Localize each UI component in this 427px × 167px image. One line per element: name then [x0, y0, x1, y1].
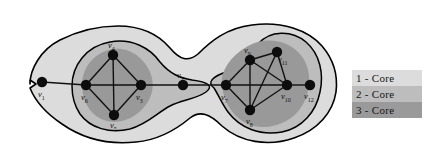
graph-edge-v4-v5 [113, 55, 114, 115]
legend-item-1-core-label: 1 - Core [356, 72, 394, 84]
graph-node-v3[interactable] [136, 80, 146, 90]
legend-item-1-core: 1 - Core [352, 70, 422, 86]
graph-node-v6[interactable] [81, 80, 91, 90]
graph-node-v5[interactable] [109, 110, 119, 120]
legend-item-3-core: 3 - Core [352, 102, 422, 118]
legend-item-3-core-label: 3 - Core [356, 104, 394, 116]
graph-node-v1[interactable] [37, 77, 47, 87]
legend: 1 - Core 2 - Core 3 - Core [352, 70, 422, 118]
graph-node-v10[interactable] [282, 80, 292, 90]
graph-node-v7[interactable] [221, 80, 231, 90]
graph-node-v8[interactable] [245, 105, 255, 115]
legend-item-2-core: 2 - Core [352, 86, 422, 102]
graph-node-v12[interactable] [305, 80, 315, 90]
legend-item-2-core-label: 2 - Core [356, 88, 394, 100]
